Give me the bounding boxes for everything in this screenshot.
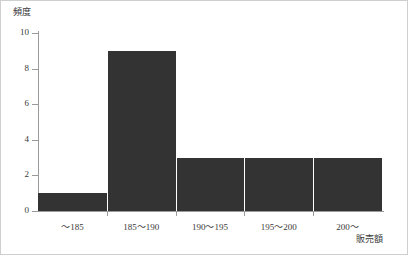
y-axis-tick-label: 2 [5, 170, 29, 179]
histogram-bar [313, 158, 382, 211]
histogram-bar [107, 51, 176, 211]
y-axis-tick-label-wrap: 4 [1, 135, 29, 144]
y-axis-tick-mark [32, 211, 38, 212]
histogram-bar [176, 158, 245, 211]
x-axis-tick-label: 195～200 [244, 220, 313, 233]
y-axis-tick-label-wrap: 8 [1, 64, 29, 73]
y-axis-tick-label-wrap: 6 [1, 99, 29, 108]
x-axis-title: 販売額 [356, 232, 383, 245]
histogram-chart: 頻度 0246810 ～185185～190190～195195～200200～… [0, 0, 408, 255]
y-axis-tick-label: 4 [5, 135, 29, 144]
x-axis-tick-label: 185～190 [107, 220, 176, 233]
y-axis-title: 頻度 [13, 5, 31, 18]
histogram-bar [244, 158, 313, 211]
x-axis-tick-mark [107, 211, 108, 216]
x-axis-tick-label: 190～195 [176, 220, 245, 233]
histogram-bar [38, 193, 107, 211]
x-axis-tick-mark [244, 211, 245, 216]
x-axis-tick-mark [313, 211, 314, 216]
plot-area [38, 33, 382, 211]
x-axis-tick-mark [176, 211, 177, 216]
y-axis-tick-label-wrap: 2 [1, 170, 29, 179]
y-axis-tick-label-wrap: 0 [1, 206, 29, 215]
y-axis-tick-label: 6 [5, 99, 29, 108]
x-axis-tick-label: ～185 [38, 220, 107, 233]
y-axis-tick-label: 8 [5, 64, 29, 73]
y-axis-tick-label: 10 [5, 28, 29, 37]
x-axis-line [38, 211, 384, 212]
y-axis-tick-label-wrap: 10 [1, 28, 29, 37]
y-axis-tick-label: 0 [5, 206, 29, 215]
